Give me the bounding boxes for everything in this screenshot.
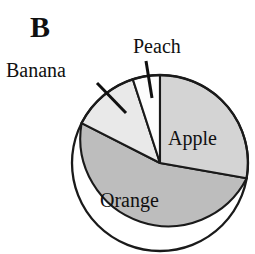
pie-label-banana: Banana [6, 60, 66, 80]
pie-label-orange: Orange [100, 190, 159, 210]
pie-label-apple: Apple [168, 128, 217, 148]
pie-label-peach: Peach [133, 36, 181, 56]
pie-chart-figure: B Banana Peach Apple Orange [0, 0, 255, 254]
panel-label: B [30, 12, 50, 42]
